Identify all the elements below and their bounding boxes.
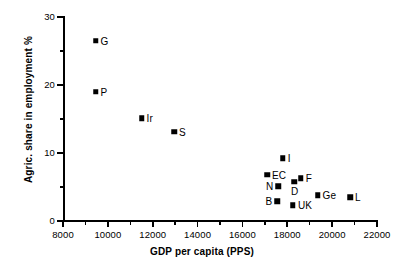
data-point-marker bbox=[274, 199, 280, 205]
data-point-label: UK bbox=[298, 200, 312, 211]
x-tick-major bbox=[107, 221, 109, 227]
y-tick-major bbox=[57, 152, 64, 154]
data-point-label: N bbox=[266, 181, 273, 192]
y-tick-label: 20 bbox=[30, 79, 55, 90]
data-point-marker bbox=[93, 38, 99, 44]
data-point-marker bbox=[298, 175, 304, 181]
data-point-marker bbox=[315, 192, 321, 198]
data-point-label: P bbox=[101, 86, 108, 97]
x-tick-major bbox=[197, 221, 199, 227]
data-point-marker bbox=[347, 194, 353, 200]
x-tick-major bbox=[331, 221, 333, 227]
data-point-label: EC bbox=[272, 169, 286, 180]
x-tick-minor bbox=[309, 221, 310, 225]
x-tick-minor bbox=[354, 221, 355, 225]
x-tick-major bbox=[286, 221, 288, 227]
x-tick-major bbox=[62, 221, 64, 227]
data-point-label: D bbox=[291, 185, 298, 196]
x-tick-label: 16000 bbox=[229, 229, 256, 240]
x-tick-label: 18000 bbox=[274, 229, 301, 240]
data-point-marker bbox=[290, 203, 296, 209]
data-point-marker bbox=[93, 89, 99, 95]
x-tick-major bbox=[152, 221, 154, 227]
data-point-label: S bbox=[179, 126, 186, 137]
data-point-marker bbox=[264, 172, 270, 178]
x-tick-minor bbox=[130, 221, 131, 225]
x-tick-label: 22000 bbox=[364, 229, 391, 240]
x-tick-minor bbox=[85, 221, 86, 225]
y-tick-minor bbox=[60, 118, 64, 119]
y-axis-title: Agric. share in employment % bbox=[23, 20, 34, 200]
x-tick-minor bbox=[264, 221, 265, 225]
x-tick-minor bbox=[174, 221, 175, 225]
x-tick-major bbox=[376, 221, 378, 227]
x-tick-major bbox=[242, 221, 244, 227]
x-axis-title: GDP per capita (PPS) bbox=[0, 246, 404, 257]
x-tick-label: 20000 bbox=[319, 229, 346, 240]
data-point-label: B bbox=[265, 196, 272, 207]
x-tick-label: 14000 bbox=[184, 229, 211, 240]
x-tick-label: 12000 bbox=[139, 229, 166, 240]
scatter-chart: 0102030800010000120001400016000180002000… bbox=[0, 0, 404, 268]
data-point-label: Ge bbox=[323, 190, 337, 201]
x-tick-label: 10000 bbox=[94, 229, 121, 240]
y-tick-minor bbox=[60, 186, 64, 187]
data-point-label: I bbox=[288, 153, 291, 164]
data-point-label: L bbox=[355, 192, 361, 203]
y-tick-label: 30 bbox=[30, 11, 55, 22]
y-tick-label: 0 bbox=[30, 215, 55, 226]
y-tick-major bbox=[57, 16, 64, 18]
data-point-marker bbox=[139, 116, 145, 122]
y-tick-major bbox=[57, 84, 64, 86]
data-point-marker bbox=[280, 156, 286, 162]
data-point-marker bbox=[276, 184, 282, 190]
x-tick-label: 8000 bbox=[52, 229, 74, 240]
data-point-label: G bbox=[101, 35, 109, 46]
data-point-marker bbox=[171, 129, 177, 135]
y-tick-label: 10 bbox=[30, 147, 55, 158]
data-point-label: Ir bbox=[147, 113, 153, 124]
data-point-label: F bbox=[306, 173, 312, 184]
y-tick-minor bbox=[60, 50, 64, 51]
x-tick-minor bbox=[219, 221, 220, 225]
data-point-marker bbox=[291, 179, 297, 185]
